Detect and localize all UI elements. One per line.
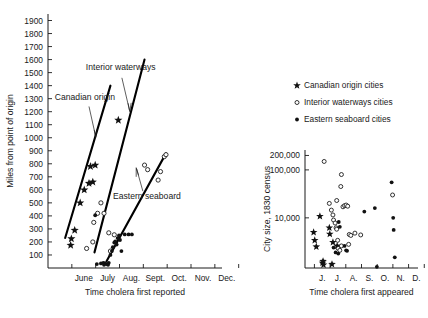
star-marker [326, 224, 334, 231]
y-tick-label: 200 [29, 237, 43, 247]
left-x-ticks: JuneJulyAug.Sept.Oct.Nov.Dec. [72, 264, 239, 283]
open-circle-marker [391, 193, 395, 197]
y-tick-label: 1900 [24, 16, 43, 26]
legend-item-2: Eastern seaboard cities [295, 114, 391, 124]
filled-circle-marker [113, 239, 117, 243]
y-tick-label: 1300 [24, 94, 43, 104]
y-tick-label: 1000 [24, 133, 43, 143]
filled-circle-marker [106, 263, 110, 267]
star-marker [91, 161, 99, 169]
filled-circle-marker [123, 232, 127, 236]
annotation-interior-waterways: Interior waterways [86, 62, 156, 72]
y-tick-label: 1700 [24, 42, 43, 52]
y-tick-label: 100,000 [270, 165, 301, 175]
legend-label: Canadian origin cities [304, 80, 383, 90]
right-x-ticks: J.J.A.S.O.N.D. [314, 264, 424, 283]
y-tick-label: 300 [29, 224, 43, 234]
filled-circle-marker [390, 180, 394, 184]
left-x-axis-title: Time cholera first reported [85, 287, 185, 297]
x-tick-label: June [75, 273, 94, 283]
open-circle-marker [335, 227, 339, 231]
y-tick-label: 1400 [24, 81, 43, 91]
filled-circle-marker [93, 213, 97, 217]
filled-circle-marker [338, 225, 342, 229]
x-tick-label: Nov. [195, 273, 212, 283]
annotation-eastern-seaboard: Eastern seaboard [113, 191, 181, 201]
open-circle-marker [91, 240, 95, 244]
right-panel: 200,000100,00010,000J.J.A.S.O.N.D.Time c… [262, 150, 424, 297]
series-open-circle [322, 159, 394, 252]
open-circle-marker [347, 242, 351, 246]
y-tick-label: 700 [29, 172, 43, 182]
legend: Canadian origin citiesInterior waterways… [293, 80, 392, 124]
filled-circle-marker [332, 246, 336, 250]
filled-circle-marker [95, 262, 99, 266]
open-circle-marker [339, 185, 343, 189]
open-circle-marker [102, 211, 106, 215]
filled-circle-marker [111, 245, 115, 249]
star-marker [328, 260, 336, 267]
y-tick-label: 600 [29, 185, 43, 195]
x-tick-label: O. [381, 273, 390, 283]
star-marker [67, 241, 75, 249]
legend-label: Interior waterways cities [304, 97, 393, 107]
y-tick-label: 800 [29, 159, 43, 169]
filled-circle-marker [345, 249, 349, 253]
filled-circle-marker [110, 249, 114, 253]
right-y-axis-title: City size, 1830 census [262, 166, 272, 252]
x-tick-label: S. [365, 273, 373, 283]
filled-circle-marker [117, 234, 121, 238]
annotation-canadian-origin: Canadian origin [55, 92, 115, 102]
open-circle-marker [322, 159, 326, 163]
y-tick-label: 400 [29, 211, 43, 221]
star-marker [310, 228, 318, 235]
y-tick-label: 900 [29, 146, 43, 156]
left-trend-lines [65, 60, 166, 262]
filled-circle-marker [120, 249, 124, 253]
left-panel: 1002003004005006007008009001000110012001… [5, 14, 239, 297]
star-marker [293, 82, 301, 89]
open-circle-marker [112, 233, 116, 237]
filled-circle-marker [375, 265, 379, 269]
open-circle-marker [107, 231, 111, 235]
x-tick-label: Sept. [145, 273, 165, 283]
open-circle-marker [353, 231, 357, 235]
filled-circle-marker [392, 228, 396, 232]
open-circle-marker [142, 163, 146, 167]
right-y-ticks: 200,000100,00010,000 [270, 150, 309, 222]
series-filled-circle [332, 180, 397, 268]
filled-circle-marker [373, 206, 377, 210]
x-tick-label: N. [397, 273, 405, 283]
left-annotations: Canadian originInterior waterwaysEastern… [55, 62, 181, 201]
right-x-axis-title: Time cholera first appeared [309, 287, 414, 297]
open-circle-marker [156, 178, 160, 182]
star-marker [71, 226, 79, 234]
filled-circle-marker [115, 243, 119, 247]
open-circle-marker [331, 213, 335, 217]
filled-circle-marker [295, 118, 299, 122]
x-tick-label: J. [319, 273, 326, 283]
filled-circle-marker [109, 253, 113, 257]
y-tick-label: 500 [29, 198, 43, 208]
x-tick-label: J. [335, 273, 342, 283]
filled-circle-marker [362, 210, 366, 214]
filled-circle-marker [336, 252, 340, 256]
star-marker [326, 230, 334, 237]
open-circle-marker [329, 208, 333, 212]
x-tick-label: A. [350, 273, 358, 283]
y-tick-label: 1600 [24, 55, 43, 65]
filled-circle-marker [127, 232, 131, 236]
open-circle-marker [336, 238, 340, 242]
y-tick-label: 1500 [24, 68, 43, 78]
y-tick-label: 10,000 [274, 213, 300, 223]
star-marker [67, 234, 75, 242]
star-marker [316, 212, 324, 219]
star-marker [313, 243, 321, 250]
open-circle-marker [99, 201, 103, 205]
y-tick-label: 1800 [24, 29, 43, 39]
open-circle-marker [146, 168, 150, 172]
filled-circle-marker [118, 238, 122, 242]
open-circle-marker [295, 101, 299, 105]
y-tick-label: 1200 [24, 107, 43, 117]
x-tick-label: D. [412, 273, 420, 283]
